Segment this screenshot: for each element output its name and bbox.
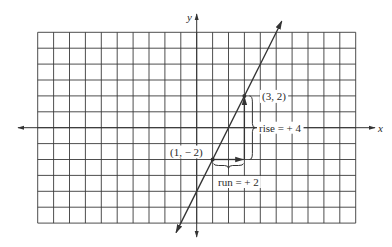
x-axis-label: x xyxy=(377,122,383,134)
point-1-neg2 xyxy=(211,158,215,162)
point-3-2-label: (3, 2) xyxy=(262,90,286,103)
y-axis-label: y xyxy=(186,11,192,23)
run-label: run = + 2 xyxy=(218,176,259,188)
point-3-2 xyxy=(242,94,246,98)
rise-label: rise = + 4 xyxy=(259,122,302,134)
slope-diagram: x y (1, − 2) (3, 2) rise = + 4 run = + 2 xyxy=(0,0,392,247)
coordinate-plane: x y (1, − 2) (3, 2) rise = + 4 run = + 2 xyxy=(0,0,392,247)
point-1-neg2-label: (1, − 2) xyxy=(170,146,203,159)
